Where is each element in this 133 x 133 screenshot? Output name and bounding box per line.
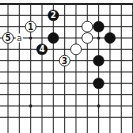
board-canvas: a12345 — [0, 0, 133, 133]
white-stone — [71, 44, 82, 55]
move-number-3: 3 — [62, 57, 68, 66]
black-stone — [93, 21, 104, 32]
move-number-5: 5 — [5, 34, 11, 43]
star-point — [97, 104, 100, 107]
move-number-4: 4 — [39, 45, 45, 54]
black-stone — [93, 78, 104, 89]
white-stone — [82, 33, 93, 44]
move-number-2: 2 — [51, 11, 57, 20]
marker-label-a: a — [17, 33, 22, 43]
white-stone — [82, 21, 93, 32]
black-stone — [93, 55, 104, 66]
star-point — [29, 104, 32, 107]
move-number-1: 1 — [28, 23, 34, 32]
star-point — [29, 36, 32, 39]
black-stone — [48, 33, 59, 44]
star-point — [97, 36, 100, 39]
go-board-diagram: a12345 — [0, 0, 133, 133]
black-stone — [105, 33, 116, 44]
